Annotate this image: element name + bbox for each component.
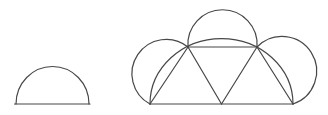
- net-left-semicircle-arc: [132, 39, 188, 104]
- net-right-slant-edge: [257, 47, 293, 104]
- net-left-inner-edge: [188, 47, 222, 104]
- net-left-slant-edge: [150, 47, 188, 104]
- net-right-inner-edge: [222, 47, 258, 104]
- geometry-diagram: [0, 0, 328, 115]
- diagram-canvas: [0, 0, 328, 115]
- small-semicircle-arc: [16, 67, 89, 105]
